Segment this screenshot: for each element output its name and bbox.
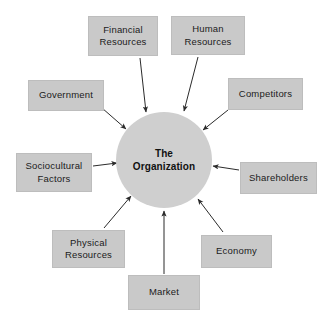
arrow-physical-resources-to-center [104,196,131,228]
node-government[interactable]: Government [28,80,104,111]
node-physical-resources[interactable]: Physical Resources [52,230,125,268]
node-economy[interactable]: Economy [201,235,272,268]
arrow-shareholders-to-center [213,166,239,170]
node-label: Financial Resources [99,24,146,48]
node-label: Economy [216,245,257,257]
arrow-human-resources-to-center [184,57,198,111]
node-sociocultural-factors[interactable]: Sociocultural Factors [16,153,92,192]
arrow-financial-resources-to-center [140,58,146,112]
diagram-canvas: The Organization Financial Resources Hum… [0,0,330,326]
node-label: Competitors [239,88,292,100]
node-label: Shareholders [249,172,308,184]
node-financial-resources[interactable]: Financial Resources [88,16,158,56]
node-market[interactable]: Market [128,275,200,310]
node-label: Physical Resources [65,237,112,261]
arrow-economy-to-center [198,199,223,232]
node-label: Government [39,89,93,101]
node-label: Market [149,286,179,298]
node-label: Human Resources [184,23,231,47]
node-shareholders[interactable]: Shareholders [240,162,317,194]
center-node-label: The Organization [133,147,195,173]
arrow-government-to-center [102,108,126,129]
arrow-competitors-to-center [203,110,228,130]
arrow-sociocultural-factors-to-center [93,163,117,166]
center-node-the-organization[interactable]: The Organization [116,112,212,208]
node-competitors[interactable]: Competitors [228,78,303,110]
node-human-resources[interactable]: Human Resources [171,16,245,55]
node-label: Sociocultural Factors [26,160,83,184]
